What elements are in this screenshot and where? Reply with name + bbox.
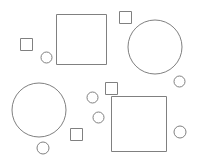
small-circle-left-upper [41,52,52,63]
shape-canvas-container [0,0,199,164]
small-square-top-right [120,12,132,24]
large-square-bottom-right [112,97,167,152]
large-square-top-center [57,15,107,65]
small-circle-bottom-left [37,142,49,154]
large-circle-top-right [128,20,182,74]
small-circle-center-lower [93,112,104,123]
small-square-bottom-center [71,129,83,141]
large-circle-bottom-left [12,83,66,137]
small-circle-right-upper [174,76,185,87]
small-square-top-left [21,39,33,51]
small-circle-center-upper [87,92,98,103]
shape-drawing-canvas [0,0,199,164]
small-circle-right-lower [174,126,186,138]
small-square-center [106,83,118,95]
